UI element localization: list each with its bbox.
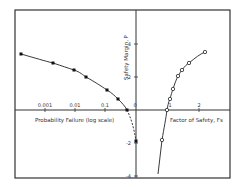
y-tick-label: -2 [126,140,131,146]
probability-markers [20,53,138,143]
chart-canvas: 4 2 -2 -4 0.001 0.01 0.1 0 1 2 Probabili… [0,0,239,187]
y-axis-label: Safety Margin, P [123,34,130,80]
x-tick-label: 0.01 [69,102,80,108]
x-tick-label: 0.1 [101,102,109,108]
x-tick-label: 0.001 [38,102,52,108]
probability-curve-dashed [127,110,136,141]
y-tick-label: -4 [126,173,131,179]
x-tick-label: 0 [133,102,136,108]
x-axis-label-right: Factor of Safety, Fs [170,117,223,124]
x-axis-label-left: Probability Failure (log scale) [35,117,114,124]
x-tick-label: 2 [197,102,200,108]
factor-of-safety-markers [160,50,206,141]
